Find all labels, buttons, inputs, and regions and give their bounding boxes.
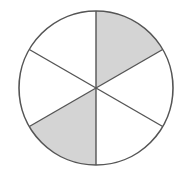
- fraction-circle-figure: [0, 0, 185, 176]
- pie-chart-svg: [0, 0, 185, 176]
